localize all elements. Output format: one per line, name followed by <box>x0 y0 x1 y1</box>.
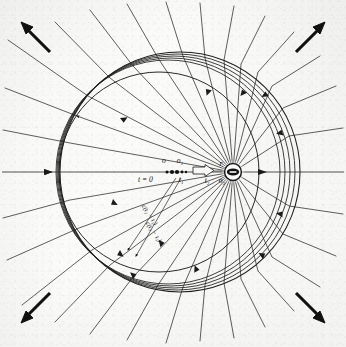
emission-point <box>170 170 174 174</box>
label-time-2: t₂ <box>205 176 210 185</box>
field-line <box>90 10 233 172</box>
axis-arrowhead <box>44 169 53 175</box>
emission-point <box>185 171 187 173</box>
field-line <box>3 130 233 172</box>
field-line <box>7 172 233 260</box>
field-line <box>55 172 233 322</box>
field-line <box>127 4 233 172</box>
field-line <box>3 172 233 218</box>
field-line <box>233 172 320 287</box>
label-time-zero: t = 0 <box>138 175 153 184</box>
label-origin-2: o₂ <box>219 176 226 185</box>
emission-point <box>175 170 179 174</box>
field-line <box>90 172 233 334</box>
corner-arrow-up-left <box>21 22 50 52</box>
corner-arrow-up-right <box>296 22 325 52</box>
corner-arrow-down-left <box>21 293 50 323</box>
emission-point <box>181 171 184 174</box>
field-line <box>233 56 320 172</box>
field-line <box>224 172 234 338</box>
figure-canvas: o o₁ t = 0 t₁ t₂ o₂ r c(t₂ − t₁) c(t₃ − … <box>0 0 346 347</box>
field-line <box>233 172 294 311</box>
corner-arrow-down-right <box>296 293 325 323</box>
label-wavefront-2: c(t₃ − t₁) <box>144 220 164 244</box>
field-line-diagram: o o₁ t = 0 t₁ t₂ o₂ r c(t₂ − t₁) c(t₃ − … <box>0 0 346 347</box>
field-line <box>224 6 234 172</box>
emission-point <box>166 171 169 174</box>
field-line <box>55 22 233 172</box>
label-origin: o <box>162 156 166 165</box>
velocity-block-arrow <box>193 165 214 177</box>
label-origin-1: o₁ <box>177 156 184 165</box>
label-radius: r <box>220 159 223 168</box>
charge-sign-bar <box>230 171 237 173</box>
field-line <box>127 172 233 340</box>
measure-line-2 <box>136 178 181 256</box>
label-time-1: t₁ <box>179 175 184 184</box>
axis-arrowhead-right <box>258 169 267 175</box>
field-line <box>5 88 233 172</box>
